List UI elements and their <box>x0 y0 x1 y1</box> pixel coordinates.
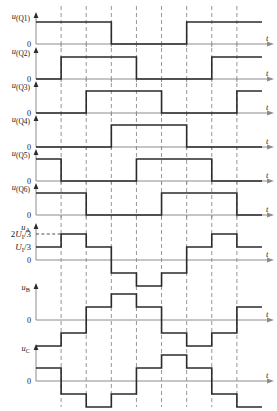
time-axis-label: t <box>266 137 269 146</box>
amplitude-axis-arrowhead <box>34 115 39 121</box>
waveform-trace <box>36 159 262 181</box>
amplitude-axis-arrowhead <box>34 183 39 189</box>
amplitude-axis-arrowhead <box>34 283 39 289</box>
waveform-trace <box>36 125 262 147</box>
series-label: uC <box>22 344 30 354</box>
waveform-trace <box>36 91 262 113</box>
amplitude-label-two-thirds: 2UI/3 <box>11 229 32 240</box>
waveform-row-uC: tuC0 <box>22 344 274 407</box>
time-axis-label: t <box>266 171 269 180</box>
zero-label: 0 <box>27 316 31 325</box>
waveform-row-uQ6: tu(Q6)0 <box>12 183 274 220</box>
waveform-row-uQ2: tu(Q2)0 <box>12 47 274 84</box>
waveform-row-uQ1: tu(Q1)0 <box>12 12 274 49</box>
amplitude-label-one-third: UI/3 <box>15 242 31 253</box>
time-axis-label: t <box>266 310 269 319</box>
amplitude-axis-arrowhead <box>34 149 39 155</box>
series-label: u(Q3) <box>12 81 31 92</box>
waveform-figure: tu(Q1)0tu(Q2)0tu(Q3)0tu(Q4)0tu(Q5)0tu(Q6… <box>0 0 277 411</box>
amplitude-axis-arrowhead <box>34 47 39 53</box>
waveform-row-uB: tuB0 <box>22 283 274 346</box>
zero-label: 0 <box>27 256 31 265</box>
waveform-row-uA: tuA02UI/3UI/3 <box>11 223 274 286</box>
amplitude-axis-arrowhead <box>34 81 39 87</box>
waveform-row-uQ4: tu(Q4)0 <box>12 115 274 152</box>
time-axis-label: t <box>266 103 269 112</box>
time-axis-label: t <box>266 34 269 43</box>
series-label: u(Q4) <box>12 115 31 126</box>
waveform-row-uQ3: tu(Q3)0 <box>12 81 274 118</box>
series-label: uB <box>22 283 30 293</box>
waveform-trace <box>36 57 262 79</box>
amplitude-axis-arrowhead <box>34 223 39 229</box>
amplitude-axis-arrowhead <box>34 344 39 350</box>
series-label: u(Q1) <box>12 12 31 23</box>
zero-label: 0 <box>27 211 31 220</box>
waveform-trace <box>36 22 262 44</box>
waveform-row-uQ5: tu(Q5)0 <box>12 149 274 186</box>
time-axis-label: t <box>266 371 269 380</box>
time-axis-label: t <box>266 205 269 214</box>
zero-label: 0 <box>27 377 31 386</box>
series-label: u(Q5) <box>12 149 31 160</box>
amplitude-axis-arrowhead <box>34 12 39 18</box>
time-axis-label: t <box>266 250 269 259</box>
waveform-svg: tu(Q1)0tu(Q2)0tu(Q3)0tu(Q4)0tu(Q5)0tu(Q6… <box>0 0 277 411</box>
series-label: u(Q6) <box>12 183 31 194</box>
series-label: u(Q2) <box>12 47 31 58</box>
time-axis-label: t <box>266 69 269 78</box>
waveform-trace <box>36 193 262 215</box>
